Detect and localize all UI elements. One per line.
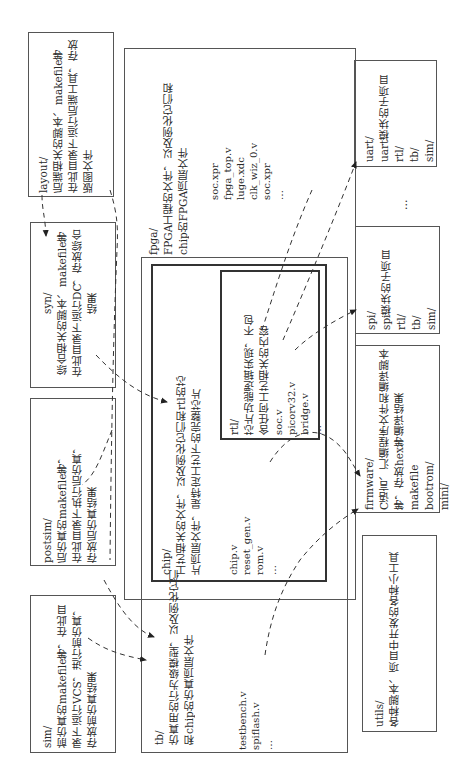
sim-name: sim/ <box>40 600 55 748</box>
fpga-file: clk_wiz_0.v <box>247 70 260 200</box>
chip-file: chip.v <box>227 470 240 575</box>
firmware-file: makefile <box>407 350 422 510</box>
firmware-file: mini/ <box>437 350 452 510</box>
rtl-name: rtl/ <box>227 285 242 435</box>
chip-file: … <box>266 470 279 575</box>
between-ellipsis: … <box>396 190 411 210</box>
tb-label: tb/ 仿真用的行为级模型，以及例化它们 和chip的仿真顶层文件 <box>152 540 197 745</box>
tb-name: tb/ <box>152 540 167 745</box>
syn-name: syn/ <box>40 228 55 378</box>
sim-desc-2: 录下运行VCS，进行前仿真， <box>70 600 85 748</box>
uart-file: sim/ <box>422 70 437 162</box>
chip-desc-1: 工艺相关的文件，以及例化它们和rtl的芯 <box>174 275 189 575</box>
layout-desc-3: 版图文件 <box>81 38 96 193</box>
spi-name: spi/ <box>364 234 379 330</box>
utils-desc: 各种脚本、项目中开发的各种小工具 <box>387 545 402 727</box>
tb-file: spiflash.v <box>249 660 262 750</box>
postsim-desc-2: 在此目录下执行后仿真， <box>70 405 85 563</box>
firmware-file: bootrom/ <box>422 350 437 510</box>
ellipsis-text: … <box>396 190 411 210</box>
syn-desc-1: 综合相关的脚本、makefile等 <box>55 228 70 378</box>
fpga-label: fpga/ FPGA工程的文件，以及例化它们和 chip的FPGA顶层文件 <box>146 55 191 255</box>
fpga-files: soc.xpr fpga_top.v luge.xdc clk_wiz_0.v … <box>208 70 286 200</box>
uart-label: uart/ uart模块的子项目 rtl/ tb/ sim/ <box>362 70 437 162</box>
rtl-file: picorv32.v <box>285 345 298 435</box>
spi-file: sim/ <box>424 234 439 330</box>
rtl-desc-2: 含任何工艺相关的内容 <box>257 285 272 435</box>
syn-label: syn/ 综合相关的脚本、makefile等 在此目录下运行DC，存放综合 结果 <box>40 228 100 378</box>
uart-desc: uart模块的子项目 <box>377 70 392 162</box>
tb-desc-1: 仿真用的行为级模型，以及例化它们 <box>167 540 182 745</box>
spi-label: spi/ spi模块的子项目 rtl/ tb/ sim/ <box>364 234 439 330</box>
chip-file: rom.v <box>253 470 266 575</box>
uart-file: tb/ <box>407 70 422 162</box>
postsim-desc-3: 存放后仿真结果 <box>85 405 100 563</box>
syn-desc-3: 结果 <box>85 228 100 378</box>
fpga-file: … <box>273 70 286 200</box>
rtl-files: soc.v picorv32.v bridge.v … <box>272 345 324 435</box>
layout-desc-1: 后端相关的脚本、makefile等 <box>51 38 66 193</box>
firmware-desc-2: 等，存放hex等编译结果 <box>392 350 407 510</box>
firmware-name: firmware/ <box>362 350 377 510</box>
uart-file: rtl/ <box>392 70 407 162</box>
chip-desc-2: 片顶层文件，是特定工艺下的完整芯片 <box>189 275 204 575</box>
sim-desc-1: 前仿真的makefile等，在此目 <box>55 600 70 748</box>
chip-files: chip.v reset_gen.v rom.v … <box>227 470 279 575</box>
rtl-file: bridge.v <box>298 345 311 435</box>
layout-desc-2: 在此目录下运行后端工具，存放 <box>66 38 81 193</box>
chip-name: chip/ <box>159 275 174 575</box>
fpga-file: fpga_top.v <box>221 70 234 200</box>
firmware-label: firmware/ C语言、汇编程序文件和编译脚本 等，存放hex等编译结果 m… <box>362 350 452 510</box>
fpga-file: luge.xdc <box>234 70 247 200</box>
spi-desc: spi模块的子项目 <box>379 234 394 330</box>
tb-desc-2: 和chip的仿真顶层文件 <box>182 540 197 745</box>
utils-label: utils/ 各种脚本、项目中开发的各种小工具 <box>372 545 402 727</box>
rtl-label: rtl/ 芯片功能逻辑实现，不包 含任何工艺相关的内容 <box>227 285 272 435</box>
spi-file: rtl/ <box>394 234 409 330</box>
tb-file: testbench.v <box>236 660 249 750</box>
rtl-file: soc.v <box>272 345 285 435</box>
postsim-desc-1: 后仿真的makefile等， <box>55 405 70 563</box>
postsim-name: postsim/ <box>40 405 55 563</box>
chip-file: reset_gen.v <box>240 470 253 575</box>
rtl-file: … <box>311 345 324 435</box>
layout-name: layout/ <box>36 38 51 193</box>
fpga-desc-1: FPGA工程的文件，以及例化它们和 <box>161 55 176 255</box>
fpga-file: soc.xpr <box>260 70 273 200</box>
uart-name: uart/ <box>362 70 377 162</box>
firmware-desc-1: C语言、汇编程序文件和编译脚本 <box>377 350 392 510</box>
sim-label: sim/ 前仿真的makefile等，在此目 录下运行VCS，进行前仿真， 存放… <box>40 600 100 748</box>
layout-label: layout/ 后端相关的脚本、makefile等 在此目录下运行后端工具，存放… <box>36 38 96 193</box>
fpga-file: soc.xpr <box>208 70 221 200</box>
tb-files: testbench.v spiflash.v … <box>236 660 275 750</box>
chip-label: chip/ 工艺相关的文件，以及例化它们和rtl的芯 片顶层文件，是特定工艺下的… <box>159 275 204 575</box>
utils-name: utils/ <box>372 545 387 727</box>
fpga-name: fpga/ <box>146 55 161 255</box>
syn-desc-2: 在此目录下运行DC，存放综合 <box>70 228 85 378</box>
tb-file: … <box>262 660 275 750</box>
fpga-desc-2: chip的FPGA顶层文件 <box>176 55 191 255</box>
rtl-desc-1: 芯片功能逻辑实现，不包 <box>242 285 257 435</box>
sim-desc-3: 存放前仿真结果 <box>85 600 100 748</box>
spi-file: tb/ <box>409 234 424 330</box>
postsim-label: postsim/ 后仿真的makefile等， 在此目录下执行后仿真， 存放后仿… <box>40 405 100 563</box>
